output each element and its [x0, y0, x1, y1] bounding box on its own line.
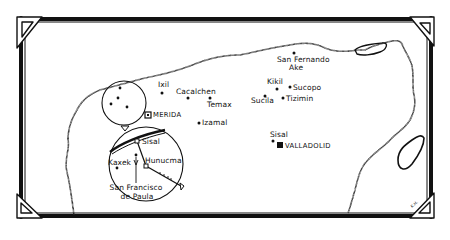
- label-merida: MERIDA: [153, 112, 181, 119]
- label-sucopo: Sucopo: [293, 84, 321, 92]
- label-hunucma: Hunucma: [145, 157, 182, 165]
- label-inset-sisal: Sisal: [142, 138, 160, 146]
- lagoon-north: [355, 43, 386, 55]
- island-east: [398, 136, 424, 169]
- label-san-fernando: San Fernando: [277, 56, 330, 64]
- town-markers: [161, 52, 296, 143]
- label-san-francisco: San Francisco: [110, 184, 163, 192]
- zoom-arrow: [121, 126, 129, 131]
- valladolid-marker: [277, 142, 283, 148]
- label-valladolid: VALLADOLID: [285, 143, 331, 150]
- label-tizimin: Tizimin: [286, 95, 313, 103]
- inset-circle-small: [102, 81, 146, 125]
- label-kikil: Kikil: [267, 78, 283, 86]
- label-temax: Temax: [207, 101, 232, 109]
- label-sucila: Sucila: [251, 97, 274, 105]
- label-cacalchen: Cacalchen: [176, 88, 216, 96]
- artist-signature: K.H.: [409, 200, 418, 209]
- label-de-paula: de Paula: [121, 193, 154, 201]
- label-ixil: Ixil: [158, 81, 169, 89]
- label-ake: Ake: [289, 64, 303, 72]
- label-kaxek: Kaxek: [108, 159, 131, 167]
- label-izamal: Izamal: [202, 119, 227, 127]
- label-sisal-valladolid: Sisal: [270, 131, 288, 139]
